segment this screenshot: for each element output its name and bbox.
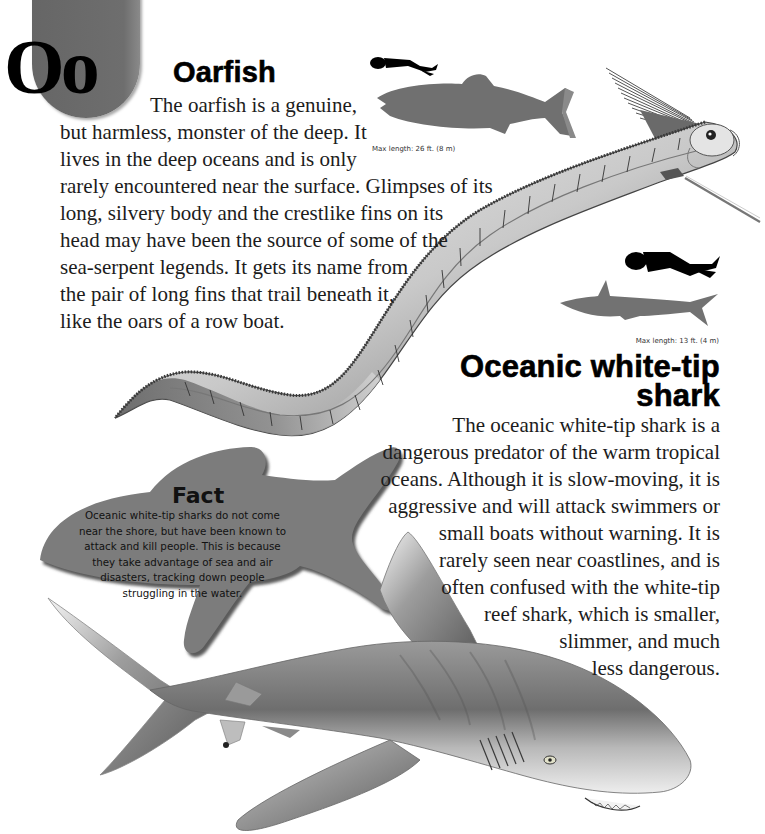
text-line: sea-serpent legends. It gets its name fr…: [60, 254, 480, 281]
oarfish-heading: Oarfish: [173, 58, 276, 87]
text-line: they take advantage of sea and air: [60, 555, 305, 571]
fact-heading: Fact: [172, 483, 224, 508]
text-line: like the oars of a row boat.: [60, 308, 480, 335]
text-line: near the shore, but have been known to: [60, 524, 305, 540]
shark-description: The oceanic white-tip shark is a dangero…: [320, 412, 720, 682]
diver-silhouette-icon-2: [625, 252, 720, 278]
shark-size-caption: Max length: 13 ft. (4 m): [636, 337, 719, 345]
text-line: The oarfish is a genuine,: [60, 92, 480, 119]
diver-silhouette-icon: [370, 57, 438, 76]
shark-heading-line-2: shark: [460, 381, 720, 410]
oarfish-size-caption: Max length: 26 ft. (8 m): [372, 145, 455, 153]
text-line: less dangerous.: [320, 655, 720, 682]
shark-silhouette-icon: [560, 280, 718, 326]
text-line: Oceanic white-tip sharks do not come: [60, 508, 305, 524]
text-line: often confused with the white-tip: [320, 574, 720, 601]
text-line: dangerous predator of the warm tropical: [320, 439, 720, 466]
oarfish-description: The oarfish is a genuine, but harmless, …: [60, 92, 480, 335]
fact-text: Oceanic white-tip sharks do not come nea…: [60, 508, 305, 601]
text-line: reef shark, which is smaller,: [320, 601, 720, 628]
text-line: disasters, tracking down people: [60, 570, 305, 586]
text-line: slimmer, and much: [320, 628, 720, 655]
text-line: rarely seen near coastlines, and is: [320, 547, 720, 574]
text-line: The oceanic white-tip shark is a: [320, 412, 720, 439]
text-line: small boats without warning. It is: [320, 520, 720, 547]
text-line: head may have been the source of some of…: [60, 227, 480, 254]
text-line: long, silvery body and the crestlike fin…: [60, 200, 480, 227]
text-line: oceans. Although it is slow-moving, it i…: [320, 466, 720, 493]
text-line: attack and kill people. This is because: [60, 539, 305, 555]
text-line: the pair of long fins that trail beneath…: [60, 281, 480, 308]
text-line: aggressive and will attack swimmers or: [320, 493, 720, 520]
shark-heading-line-1: Oceanic white-tip: [460, 352, 720, 381]
text-line: struggling in the water.: [60, 586, 305, 602]
shark-heading: Oceanic white-tip shark: [460, 352, 720, 411]
text-line: rarely encountered near the surface. Gli…: [60, 173, 480, 200]
text-line: but harmless, monster of the deep. It: [60, 119, 480, 146]
